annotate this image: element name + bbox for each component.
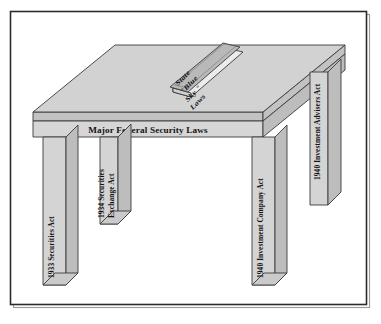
front-right-leg-side [275, 125, 287, 285]
apron-label: Major Federal Security Laws [88, 125, 208, 135]
table-top-front-edge [33, 112, 263, 121]
front-right-leg-label: 1940 Investment Company Act [256, 178, 265, 278]
front-right-leg: 1940 Investment Company Act [252, 125, 287, 285]
back-right-leg: 1940 Investment Advisers Act [310, 59, 341, 205]
back-left-leg: 1934 Securities Exchange Act [97, 124, 131, 224]
back-right-leg-label: 1940 Investment Advisers Act [313, 83, 322, 180]
back-left-leg-label-line1: 1934 Securities [97, 169, 106, 218]
front-left-leg-label: 1933 Securities Act [47, 216, 56, 278]
front-left-leg-side [66, 125, 78, 285]
back-right-leg-side [328, 59, 341, 205]
back-left-leg-label-line2: Exchange Act [107, 173, 116, 218]
securities-laws-table-diagram: Major Federal Security Laws 1940 Investm… [0, 0, 381, 324]
front-left-leg: 1933 Securities Act [43, 125, 78, 285]
figure-container: Major Federal Security Laws 1940 Investm… [0, 0, 381, 324]
back-left-leg-side [118, 124, 131, 224]
